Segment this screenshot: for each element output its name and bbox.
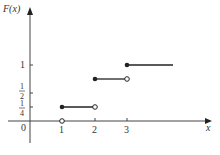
svg-text:4: 4 xyxy=(20,109,24,118)
open-point-icon xyxy=(60,119,65,124)
origin-label: 0 xyxy=(21,122,26,133)
closed-point-icon xyxy=(125,63,130,68)
x-tick-label-2: 2 xyxy=(92,124,97,135)
svg-text:1: 1 xyxy=(20,99,24,108)
x-tick-label-3: 3 xyxy=(124,124,129,135)
closed-point-icon xyxy=(93,77,98,82)
open-point-icon xyxy=(125,77,130,82)
svg-text:1: 1 xyxy=(20,82,24,91)
x-axis-label: x xyxy=(205,122,211,133)
open-point-icon xyxy=(93,105,98,110)
y-tick-label-1: 1 xyxy=(20,59,25,70)
step-segments xyxy=(62,65,173,107)
cdf-step-chart: F(x) x 0 1 2 3 1 1 2 1 4 xyxy=(0,0,220,155)
y-tick-label-quarter: 1 4 xyxy=(19,99,25,118)
y-axis-arrow-icon xyxy=(27,7,33,15)
x-tick-label-1: 1 xyxy=(59,124,64,135)
y-axis-label: F(x) xyxy=(2,3,21,15)
closed-point-icon xyxy=(60,105,65,110)
